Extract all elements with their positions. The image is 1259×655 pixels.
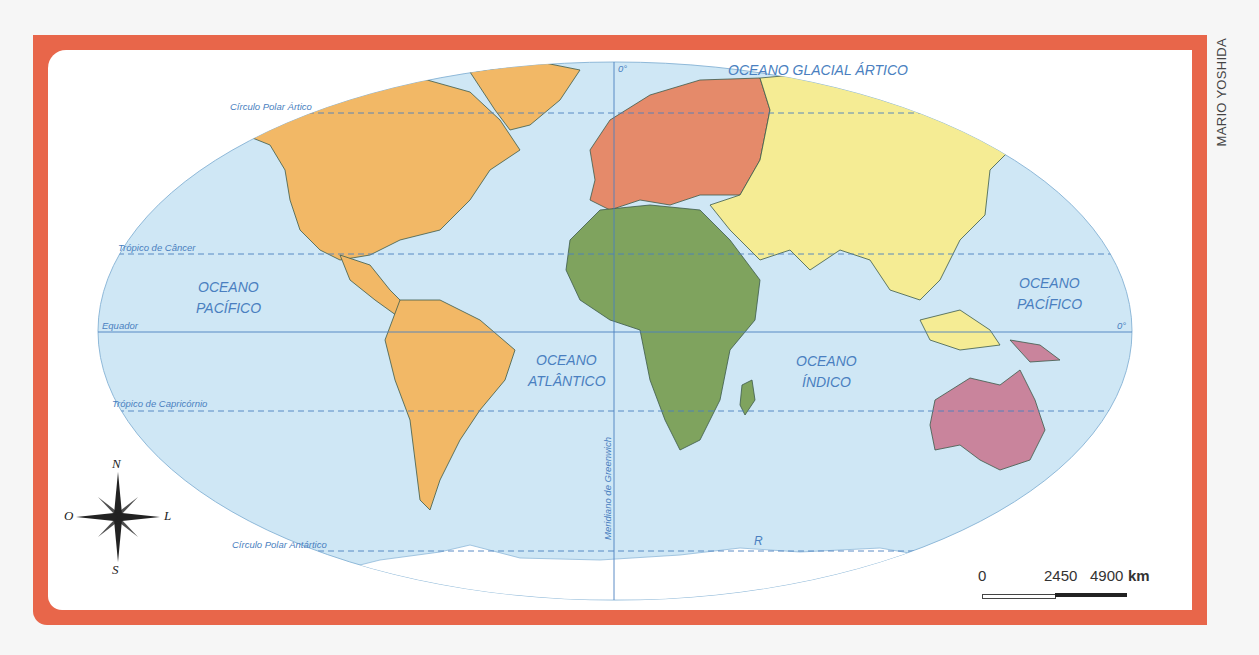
label-atlantico-1: OCEANO (536, 352, 597, 368)
compass-n: N (112, 456, 121, 472)
label-arctic-circle: Círculo Polar Ártico (230, 101, 312, 112)
label-zero-equator: 0° (1117, 320, 1126, 331)
scale-2450: 2450 (1044, 567, 1077, 584)
label-zero-meridian: 0° (618, 63, 627, 74)
label-r: R (754, 534, 763, 548)
scale-bar-white (982, 594, 1056, 599)
label-atlantico-2: ATLÂNTICO (527, 373, 606, 389)
label-pacifico-w-1: OCEANO (198, 279, 259, 295)
compass-rose: N S O L (68, 462, 168, 572)
label-tropic-cancer: Trópico de Câncer (118, 242, 196, 253)
label-tropic-capricorn: Trópico de Capricórnio (112, 398, 207, 409)
scale-bar: 0 2450 4900 km (972, 567, 1132, 607)
label-pacifico-e-2: PACÍFICO (1017, 296, 1082, 312)
label-indico-1: OCEANO (796, 353, 857, 369)
scale-bar-black (1055, 593, 1127, 597)
label-equator: Equador (102, 320, 139, 331)
author-credit: MARIO YOSHIDA (1214, 38, 1229, 146)
scale-4900: 4900 (1090, 567, 1123, 584)
label-greenwich: Meridiano de Greenwich (602, 437, 613, 540)
compass-s: S (112, 562, 119, 578)
label-glacial-artico: OCEANO GLACIAL ÁRTICO (728, 62, 908, 78)
scale-0: 0 (978, 567, 986, 584)
world-map: OCEANO GLACIAL ÁRTICO 0° Círculo Polar Á… (48, 50, 1192, 610)
compass-w: O (64, 508, 73, 524)
label-pacifico-e-1: OCEANO (1019, 275, 1080, 291)
label-indico-2: ÍNDICO (802, 374, 851, 390)
scale-unit: km (1128, 567, 1150, 584)
label-pacifico-w-2: PACÍFICO (196, 300, 261, 316)
compass-star-icon (68, 462, 168, 572)
compass-e: L (164, 508, 171, 524)
label-antarctic-circle: Círculo Polar Antártico (232, 539, 327, 550)
